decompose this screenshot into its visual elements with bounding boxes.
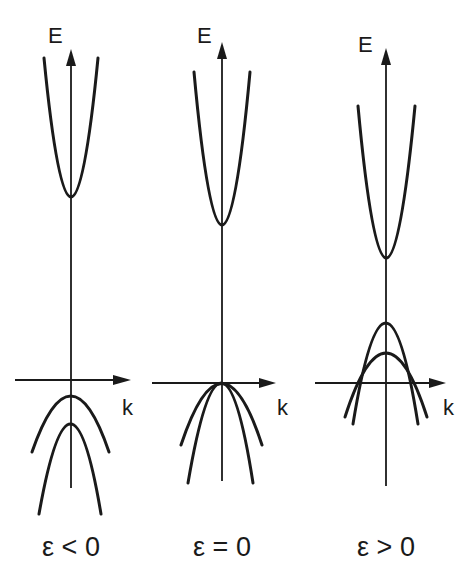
caption-eps-zero: ε = 0 [193, 532, 251, 562]
k-axis-arrow-icon [259, 378, 276, 388]
energy-axis-arrow-icon [217, 42, 227, 59]
panel-eps-zero: E k ε = 0 [152, 23, 289, 562]
energy-axis-label: E [197, 23, 212, 48]
panel-eps-negative: E k ε < 0 [15, 23, 134, 562]
energy-axis-label: E [358, 32, 373, 57]
panel-eps-positive: E k ε > 0 [315, 32, 455, 562]
k-axis-arrow-icon [429, 378, 446, 388]
energy-axis-label: E [48, 23, 63, 48]
caption-eps-negative: ε < 0 [42, 532, 100, 562]
k-axis-arrow-icon [113, 375, 131, 385]
energy-axis-arrow-icon [381, 48, 391, 65]
energy-axis-arrow-icon [66, 49, 76, 66]
valence-band-narrow [39, 424, 101, 514]
band-structure-figure: E k ε < 0 E k ε = 0 E k ε > 0 [0, 0, 468, 576]
caption-eps-positive: ε > 0 [357, 532, 415, 562]
k-axis-label: k [277, 395, 289, 420]
k-axis-label: k [122, 395, 134, 420]
valence-band-narrow [188, 383, 253, 483]
k-axis-label: k [443, 395, 455, 420]
